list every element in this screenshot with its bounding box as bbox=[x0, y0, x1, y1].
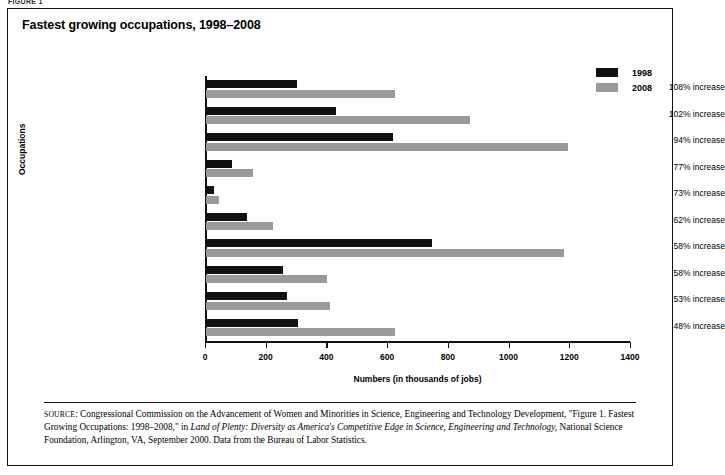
x-axis-title: Numbers (in thousands of jobs) bbox=[205, 374, 630, 384]
y-axis-title: Occupations bbox=[17, 124, 27, 175]
increase-annotation: 102% increase bbox=[639, 109, 725, 119]
x-tick-label: 1000 bbox=[499, 352, 518, 362]
increase-annotation: 48% increase bbox=[639, 321, 725, 331]
source-line-1: : Congressional Commission on the Advanc… bbox=[75, 409, 606, 419]
bar-row: Paralegals and legal assistants62% incre… bbox=[205, 209, 630, 236]
x-tick-label: 0 bbox=[203, 352, 208, 362]
x-tick-label: 200 bbox=[259, 352, 273, 362]
bar-row: Medical assistants58% increase bbox=[205, 262, 630, 289]
x-axis-line bbox=[205, 341, 630, 343]
bar-row: Systems analysts94% increase bbox=[205, 129, 630, 156]
row-text: Social and human service assistants53% i… bbox=[205, 294, 630, 306]
plot-area: Computer engineers108% increaseComputer … bbox=[205, 76, 630, 341]
bar-row: Social and human service assistants53% i… bbox=[205, 288, 630, 315]
row-text: Computer support specialists102% increas… bbox=[205, 109, 630, 121]
source-line-2-italic: Land of Plenty: Diversity as America's C… bbox=[191, 422, 558, 432]
increase-annotation: 77% increase bbox=[639, 162, 725, 172]
source-note: SOURCE: Congressional Commission on the … bbox=[44, 408, 640, 448]
increase-annotation: 73% increase bbox=[639, 188, 725, 198]
row-text: Desktop publishing specialists73% increa… bbox=[205, 188, 630, 200]
bar-rows: Computer engineers108% increaseComputer … bbox=[205, 76, 630, 341]
row-text: Paralegals and legal assistants62% incre… bbox=[205, 215, 630, 227]
row-text: Database administrators77% increase bbox=[205, 162, 630, 174]
x-tick-label: 1200 bbox=[560, 352, 579, 362]
figure-caption: FIGURE 1 bbox=[8, 0, 43, 6]
x-tick-mark bbox=[266, 342, 267, 348]
bar-row: Computer engineers108% increase bbox=[205, 76, 630, 103]
bar-row: Physician assistants48% increase bbox=[205, 315, 630, 342]
increase-annotation: 58% increase bbox=[639, 241, 725, 251]
x-tick-mark bbox=[509, 342, 510, 348]
row-text: Personal care and home health aides58% i… bbox=[205, 241, 630, 253]
legend-label-1998: 1998 bbox=[632, 68, 652, 78]
x-tick-label: 1400 bbox=[621, 352, 640, 362]
x-tick-mark bbox=[630, 342, 631, 348]
increase-annotation: 108% increase bbox=[639, 82, 725, 92]
x-tick-mark bbox=[387, 342, 388, 348]
x-tick-mark bbox=[448, 342, 449, 348]
row-text: Computer engineers108% increase bbox=[205, 82, 630, 94]
source-prefix: SOURCE bbox=[44, 410, 75, 419]
x-tick-mark bbox=[205, 342, 206, 348]
bar-row: Desktop publishing specialists73% increa… bbox=[205, 182, 630, 209]
x-tick-label: 800 bbox=[441, 352, 455, 362]
row-text: Physician assistants48% increase bbox=[205, 321, 630, 333]
source-divider bbox=[44, 402, 636, 403]
bar-row: Computer support specialists102% increas… bbox=[205, 103, 630, 130]
increase-annotation: 62% increase bbox=[639, 215, 725, 225]
x-tick-mark bbox=[326, 342, 327, 348]
row-text: Medical assistants58% increase bbox=[205, 268, 630, 280]
x-tick-mark bbox=[569, 342, 570, 348]
row-text: Systems analysts94% increase bbox=[205, 135, 630, 147]
bar-row: Personal care and home health aides58% i… bbox=[205, 235, 630, 262]
bar-row: Database administrators77% increase bbox=[205, 156, 630, 183]
increase-annotation: 94% increase bbox=[639, 135, 725, 145]
x-tick-label: 600 bbox=[380, 352, 394, 362]
increase-annotation: 53% increase bbox=[639, 294, 725, 304]
x-tick-label: 400 bbox=[319, 352, 333, 362]
increase-annotation: 58% increase bbox=[639, 268, 725, 278]
chart-title: Fastest growing occupations, 1998–2008 bbox=[22, 18, 261, 32]
